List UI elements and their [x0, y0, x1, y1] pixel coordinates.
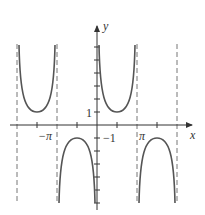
- x-axis: [10, 122, 192, 128]
- x-axis-label: x: [189, 128, 196, 142]
- curve-branch-3: [99, 45, 135, 112]
- curve-branch-4: [139, 138, 175, 203]
- y-tick-label-1: 1: [86, 106, 92, 120]
- neg-pi-label: −π: [38, 129, 53, 143]
- cosecant-graph: y x −π π 1 −1: [0, 0, 205, 215]
- y-axis-label: y: [102, 19, 109, 33]
- curve-branch-2: [59, 138, 95, 203]
- curve-branch-1: [19, 45, 55, 112]
- pi-label: π: [139, 129, 146, 143]
- y-tick-label-neg-1: −1: [103, 131, 116, 145]
